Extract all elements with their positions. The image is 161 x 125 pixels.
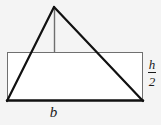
half-height-label: h 2 [145, 58, 159, 88]
fraction-numerator: h [148, 58, 157, 72]
fraction-bar [148, 72, 157, 73]
geometry-figure: b h 2 [0, 0, 161, 125]
fraction: h 2 [148, 58, 157, 88]
fraction-denominator: 2 [148, 74, 157, 88]
base-length-label: b [0, 105, 107, 120]
